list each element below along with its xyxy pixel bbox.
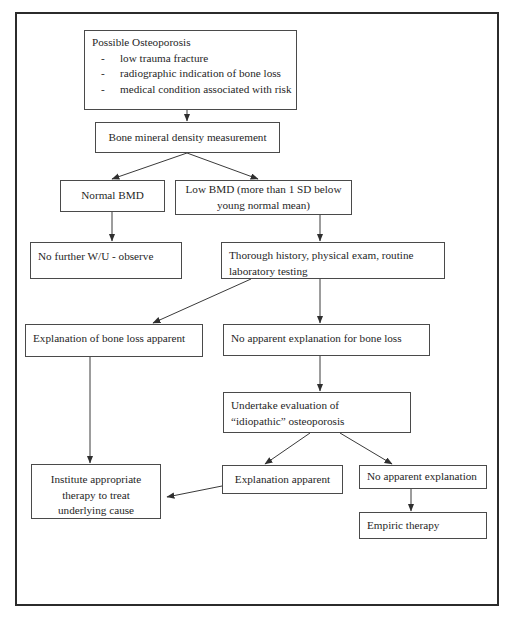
- node-label: No apparent explanation: [367, 469, 479, 485]
- node-empiric-therapy: Empiric therapy: [359, 512, 487, 539]
- node-thorough-history: Thorough history, physical exam, routine…: [221, 242, 445, 279]
- edge-undertake-to-no-apparent: [340, 433, 392, 464]
- node-label: Low BMD (more than 1 SD below young norm…: [183, 182, 344, 213]
- symptom-list: low trauma fracture radiographic indicat…: [92, 51, 289, 98]
- list-item: medical condition associated with risk: [92, 82, 289, 98]
- node-label: Explanation apparent: [230, 472, 335, 488]
- node-label: Explanation of bone loss apparent: [33, 331, 195, 347]
- node-label: Empiric therapy: [367, 518, 479, 534]
- node-explanation-apparent: Explanation apparent: [222, 465, 343, 494]
- node-normal-bmd: Normal BMD: [60, 180, 165, 212]
- node-explanation-of-bone-loss: Explanation of bone loss apparent: [25, 324, 203, 357]
- edge-history-to-explanation: [153, 279, 251, 323]
- node-bmd-measurement: Bone mineral density measurement: [95, 122, 280, 153]
- node-undertake-evaluation: Undertake evaluation of “idiopathic” ost…: [223, 392, 411, 433]
- node-institute-therapy: Institute appropriate therapy to treat u…: [31, 464, 161, 519]
- node-no-apparent-explanation: No apparent explanation: [359, 465, 487, 489]
- edge-bmd-to-low: [187, 153, 258, 179]
- node-no-further-workup: No further W/U - observe: [30, 242, 182, 279]
- node-heading: Possible Osteoporosis: [92, 35, 289, 51]
- node-label: Institute appropriate therapy to treat u…: [39, 472, 153, 519]
- list-item: radiographic indication of bone loss: [92, 66, 289, 82]
- node-label: Bone mineral density measurement: [103, 130, 272, 146]
- node-low-bmd: Low BMD (more than 1 SD below young norm…: [175, 180, 352, 215]
- node-label: Thorough history, physical exam, routine…: [229, 248, 437, 279]
- node-label: No further W/U - observe: [38, 249, 174, 265]
- node-possible-osteoporosis: Possible Osteoporosis low trauma fractur…: [84, 30, 297, 110]
- node-label: No apparent explanation for bone loss: [231, 331, 422, 347]
- node-no-apparent-explanation-bone-loss: No apparent explanation for bone loss: [223, 324, 430, 356]
- edge-undertake-to-explanation-apparent: [265, 433, 310, 464]
- list-item: low trauma fracture: [92, 51, 289, 67]
- edge-bmd-to-normal: [112, 153, 187, 179]
- node-label: Undertake evaluation of “idiopathic” ost…: [231, 398, 403, 429]
- node-label: Normal BMD: [68, 188, 157, 204]
- edge-explanation-apparent-to-institute: [167, 486, 222, 497]
